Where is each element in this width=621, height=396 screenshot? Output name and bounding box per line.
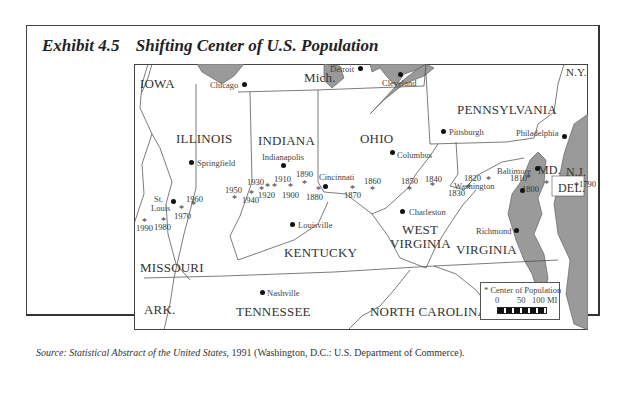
city-label-pittsburgh: Pittsburgh (449, 127, 484, 137)
city-label-charleston: Charleston (409, 207, 446, 217)
year-label-1870: 1870 (344, 190, 361, 200)
city-label-nashville: Nashville (267, 288, 300, 298)
year-label-1830: 1830 (448, 188, 465, 198)
population-center-map: IOWA Mich. N.Y. ILLINOIS INDIANA OHIO PE… (134, 64, 588, 330)
exhibit-heading: Shifting Center of U.S. Population (136, 36, 379, 55)
city-label-louisville: Louisville (298, 220, 332, 230)
population-center-marker-icon: * (466, 182, 471, 193)
scale-tick-0: 0 (495, 295, 499, 305)
year-label-1970: 1970 (174, 211, 191, 221)
year-label-1890: 1890 (296, 169, 313, 179)
city-marker-icon (400, 209, 405, 214)
city-label-springfield: Springfield (197, 158, 235, 168)
state-label-new-york: N.Y. (566, 66, 587, 78)
city-label-cincinnati: Cincinnati (319, 172, 354, 182)
year-label-1990: 1990 (136, 223, 153, 233)
city-marker-icon (398, 72, 403, 77)
year-label-1910: 1910 (274, 174, 291, 184)
city-label-cleveland: Cleveland (382, 78, 416, 88)
year-label-1980: 1980 (154, 222, 171, 232)
city-label-indianapolis: Indianapolis (262, 152, 304, 162)
year-label-1850: 1850 (401, 176, 418, 186)
city-label-philadelphia: Philadelphia (516, 128, 559, 138)
year-label-1810: 1810 (510, 173, 527, 183)
city-label-detroit: Detroit (330, 64, 354, 74)
city-label-columbus: Columbus (397, 150, 432, 160)
exhibit-number: Exhibit 4.5 (42, 36, 119, 55)
state-label-ohio: OHIO (360, 131, 393, 147)
city-marker-icon (441, 129, 446, 134)
city-marker-icon (390, 150, 395, 155)
city-label-richmond: Richmond (476, 226, 511, 236)
state-label-arkansas: ARK. (144, 302, 176, 318)
year-label-1880: 1880 (306, 192, 323, 202)
population-center-marker-icon: * (265, 181, 270, 192)
year-label-1940: 1940 (242, 195, 259, 205)
state-label-north-carolina: NORTH CAROLINA (370, 304, 487, 320)
scale-tick-100: 100 MI (532, 295, 557, 305)
population-center-marker-icon: * (302, 178, 307, 189)
state-label-iowa: IOWA (140, 76, 175, 92)
state-label-new-jersey: N.J. (566, 165, 586, 180)
state-label-missouri: MISSOURI (140, 260, 204, 276)
state-label-west-virginia: VIRGINIA (390, 236, 451, 252)
city-marker-icon (323, 184, 328, 189)
scale-tick-50: 50 (517, 295, 526, 305)
city-marker-icon (514, 228, 519, 233)
state-label-virginia: VIRGINIA (456, 242, 517, 258)
year-label-1900: 1900 (282, 190, 299, 200)
population-center-marker-icon: * (544, 178, 549, 189)
source-prefix: Source: (36, 347, 69, 358)
state-label-pennsylvania: PENNSYLVANIA (457, 102, 557, 118)
year-label-1860: 1860 (364, 176, 381, 186)
city-marker-icon (535, 166, 540, 171)
state-label-kentucky: KENTUCKY (284, 245, 357, 261)
year-label-1950: 1950 (225, 185, 242, 195)
map-legend: * Center of Population 0 50 100 MI (480, 282, 560, 320)
year-label-1800: 1800 (522, 184, 539, 194)
exhibit-title: Exhibit 4.5 Shifting Center of U.S. Popu… (42, 36, 379, 56)
city-marker-icon (171, 199, 176, 204)
city-marker-icon (562, 134, 567, 139)
state-label-indiana: INDIANA (258, 133, 315, 149)
year-label-1960: 1960 (186, 194, 203, 204)
year-label-1790: 1790 (579, 179, 596, 189)
state-label-maryland: MD. (538, 163, 561, 178)
source-details: , 1991 (Washington, D.C.: U.S. Departmen… (227, 347, 465, 358)
city-label-chicago: Chicago (210, 80, 238, 90)
city-marker-icon (189, 160, 194, 165)
state-label-illinois: ILLINOIS (176, 131, 232, 147)
city-marker-icon (281, 163, 286, 168)
city-marker-icon (358, 66, 363, 71)
legend-label: * Center of Population (484, 285, 561, 295)
source-title: Statistical Abstract of the United State… (69, 347, 226, 358)
population-center-marker-icon: * (486, 174, 491, 185)
city-marker-icon (242, 82, 247, 87)
source-citation: Source: Statistical Abstract of the Unit… (36, 347, 465, 358)
city-label-louis: Louis (151, 203, 170, 213)
state-label-tennessee: TENNESSEE (236, 304, 311, 320)
city-marker-icon (290, 222, 295, 227)
year-label-1930: 1930 (247, 177, 264, 187)
city-marker-icon (260, 290, 265, 295)
year-label-1840: 1840 (425, 174, 442, 184)
scale-bar (497, 307, 547, 314)
